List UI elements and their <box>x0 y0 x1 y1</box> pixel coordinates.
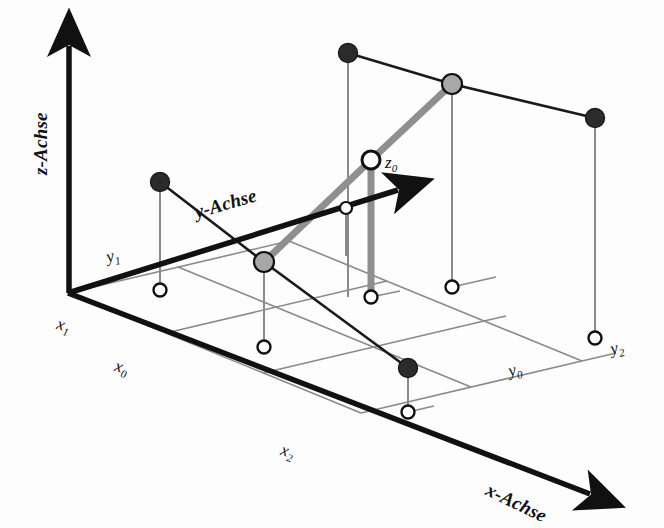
node-x1y0 <box>365 291 378 304</box>
point-top-dark <box>339 44 358 63</box>
point-left-dark <box>151 173 170 192</box>
point-top-gray <box>442 74 462 94</box>
grid-line-y-3 <box>361 361 582 413</box>
axis-x <box>68 293 590 494</box>
axis-label-z: z-Achse <box>30 112 52 175</box>
tick-sub-z0: 0 <box>392 162 398 174</box>
thick-path-segment <box>264 84 452 262</box>
point-z0-open <box>362 151 380 169</box>
grid-line-y-2 <box>263 321 484 373</box>
tick-base-z0: z <box>385 153 392 172</box>
grid-line-x-1 <box>178 267 471 387</box>
tick-label-z0: z0 <box>385 153 397 174</box>
dark-polyline-upper <box>348 53 595 118</box>
point-low-dark <box>399 359 418 378</box>
grid-line-y-1 <box>166 281 387 333</box>
grid-stub-y0 <box>484 316 506 321</box>
coordinate-system-svg <box>0 0 664 528</box>
point-right-dark <box>586 109 605 128</box>
node-x1y1 <box>154 284 167 297</box>
point-mid-gray <box>254 252 274 272</box>
axes-group <box>68 46 590 494</box>
node-x0y1 <box>258 341 271 354</box>
thick-gray-path <box>264 84 452 297</box>
node-x1y2 <box>446 281 459 294</box>
node-x2y2 <box>589 332 602 345</box>
diagram-canvas: z-Achse y-Achse x-Achse y1 x1 x0 x2 y0 y… <box>0 0 664 528</box>
point-small-open <box>340 202 352 214</box>
grid-line-x-2 <box>289 241 582 361</box>
node-x2y0 <box>402 406 415 419</box>
